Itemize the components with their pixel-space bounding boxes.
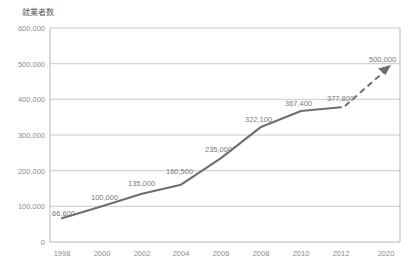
x-tick-2020: 2020	[378, 249, 395, 258]
y-tick-600000: 600,000	[18, 24, 45, 33]
y-tick-300000: 300,000	[18, 131, 45, 140]
x-tick-2010: 2010	[293, 249, 310, 258]
y-tick-200000: 200,000	[18, 167, 45, 176]
label-2006: 235,000	[205, 145, 232, 154]
x-tick-2000: 2000	[94, 249, 111, 258]
label-2004: 160,500	[166, 167, 193, 176]
x-axis-tick-labels: 1998 2000 2002 2004 2006 2008 2010 2012 …	[54, 249, 395, 258]
x-tick-2012: 2012	[333, 249, 350, 258]
x-tick-2004: 2004	[173, 249, 190, 258]
label-2020-projection: 500,000	[369, 55, 396, 64]
label-2010: 367,400	[285, 99, 312, 108]
y-tick-400000: 400,000	[18, 95, 45, 104]
employment-line-chart: 就業者数 0 100,000 200,000 300,000 400,000 5…	[0, 0, 420, 278]
label-2012: 377,800	[327, 94, 354, 103]
label-2000: 100,000	[91, 193, 118, 202]
x-tick-2006: 2006	[213, 249, 230, 258]
label-2008: 322,100	[245, 115, 272, 124]
gridlines	[50, 28, 400, 206]
y-tick-500000: 500,000	[18, 60, 45, 69]
label-2002: 135,000	[128, 179, 155, 188]
x-tick-1998: 1998	[54, 249, 71, 258]
y-tick-100000: 100,000	[18, 202, 45, 211]
label-1998: 66,600	[52, 209, 75, 218]
projection-arrowhead-icon	[378, 65, 391, 75]
chart-title: 就業者数	[22, 7, 54, 17]
x-tick-2008: 2008	[253, 249, 270, 258]
chart-canvas: 就業者数 0 100,000 200,000 300,000 400,000 5…	[0, 0, 420, 278]
data-point-labels: 66,600 100,000 135,000 160,500 235,000 3…	[52, 55, 396, 218]
y-axis-tick-labels: 0 100,000 200,000 300,000 400,000 500,00…	[18, 24, 45, 247]
y-tick-0: 0	[41, 238, 45, 247]
x-tick-2002: 2002	[134, 249, 151, 258]
